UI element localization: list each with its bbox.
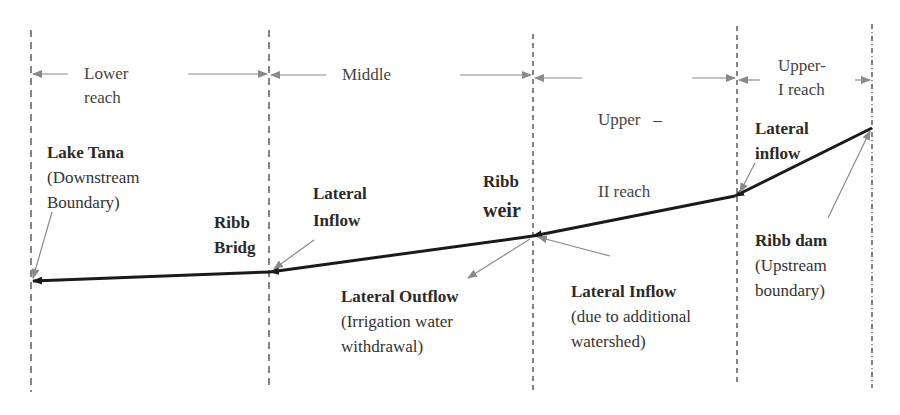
pointer-lake-tana	[33, 212, 52, 278]
lateral-inflow-upper1-line1: Lateral	[755, 116, 809, 141]
reach-label-middle: Middle	[342, 63, 391, 87]
reach-lower-line2: reach	[84, 86, 128, 110]
ribb-dam-line2: (Upstream	[755, 253, 827, 278]
lateral-inflow-upper2-line3: watershed)	[571, 329, 691, 354]
lateral-outflow-line2: (Irrigation water	[341, 309, 459, 334]
lateral-inflow-middle-line1: Lateral	[313, 180, 367, 207]
pointer-ribb-dam	[828, 131, 870, 218]
label-lateral-outflow: Lateral Outflow (Irrigation water withdr…	[341, 284, 459, 359]
river-profile-line	[33, 128, 872, 281]
pointer-arrows	[33, 131, 870, 278]
pointer-lateral-inflow-middle	[274, 240, 314, 269]
reach-upper1-line2: I reach	[778, 78, 826, 102]
lateral-inflow-upper2-title: Lateral Inflow	[571, 279, 691, 304]
lateral-inflow-middle-line2: Inflow	[313, 207, 367, 234]
reach-lower-line1: Lower	[84, 62, 128, 86]
label-ribb-dam: Ribb dam (Upstream boundary)	[755, 228, 827, 303]
ribb-weir-line2: weir	[483, 196, 521, 224]
ribb-bridge-line2: Bridg	[214, 235, 256, 260]
label-ribb-weir: Ribb weir	[483, 168, 521, 224]
reach-upper1-line1: Upper-	[778, 54, 826, 78]
lateral-inflow-upper2-line2: (due to additional	[571, 304, 691, 329]
reach-middle-line1: Middle	[342, 63, 391, 87]
ribb-dam-title: Ribb dam	[755, 228, 827, 253]
reach-upper2-line1: Upper –	[598, 108, 662, 132]
label-lateral-inflow-upper1: Lateral inflow	[755, 116, 809, 166]
lake-tana-line3: Boundary)	[47, 190, 140, 215]
lateral-outflow-title: Lateral Outflow	[341, 284, 459, 309]
reach-upper2-line2: II reach	[598, 180, 662, 204]
reach-label-upper-i: Upper- I reach	[778, 54, 826, 102]
lateral-outflow-line3: withdrawal)	[341, 334, 459, 359]
pointer-lateral-inflow-upper2	[538, 237, 610, 256]
reach-label-upper-ii: Upper – II reach	[598, 60, 662, 228]
ribb-weir-line1: Ribb	[483, 168, 521, 196]
ribb-bridge-line1: Ribb	[214, 210, 256, 235]
label-lake-tana: Lake Tana (Downstream Boundary)	[47, 140, 140, 215]
lake-tana-title: Lake Tana	[47, 140, 140, 165]
reach-label-lower: Lower reach	[84, 62, 128, 110]
ribb-dam-line3: boundary)	[755, 278, 827, 303]
lake-tana-line2: (Downstream	[47, 165, 140, 190]
reach-arrows	[33, 74, 870, 80]
label-ribb-bridge: Ribb Bridg	[214, 210, 256, 260]
label-lateral-inflow-middle: Lateral Inflow	[313, 180, 367, 234]
lateral-inflow-upper1-line2: inflow	[755, 141, 809, 166]
label-lateral-inflow-upper2: Lateral Inflow (due to additional waters…	[571, 279, 691, 354]
